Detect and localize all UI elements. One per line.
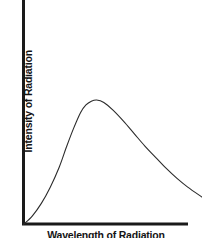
y-axis-label: Intensity of Radiation xyxy=(23,21,34,181)
radiation-curve-path xyxy=(24,100,203,225)
x-axis-label: Wavelength of Radiation xyxy=(23,230,189,238)
radiation-curve-figure: Intensity of Radiation Wavelength of Rad… xyxy=(0,0,202,238)
